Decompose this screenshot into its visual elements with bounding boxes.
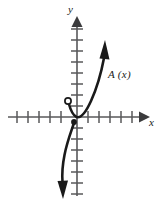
y-axis-group [71,16,83,196]
function-graph-figure: x y A (x) [0,0,164,205]
curve-function-label: A (x) [107,68,131,81]
curve-path-lower [62,123,74,182]
curve-path-upper [69,58,105,117]
x-axis-label: x [148,116,154,128]
curve-arrow-down-icon [58,181,69,200]
y-axis-label: y [67,3,73,15]
y-axis-arrow-icon [72,16,83,27]
closed-endpoint-circle [71,119,77,125]
curve-arrow-up-icon [100,40,110,60]
curve-lower-left-branch [58,119,77,199]
open-endpoint-circle [65,98,71,104]
graph-canvas: x y A (x) [0,0,164,205]
